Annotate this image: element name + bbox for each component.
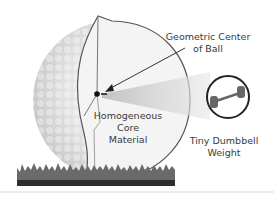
label-core-3: Material — [109, 134, 148, 145]
label-core-2: Core — [117, 122, 139, 133]
label-weight-1: Tiny Dumbbell — [189, 135, 259, 146]
dumbbell-callout — [207, 76, 249, 118]
small-weight-mark — [101, 93, 107, 95]
golf-ball-diagram: Geometric Center of Ball Homogeneous Cor… — [0, 0, 274, 201]
label-weight-2: Weight — [207, 147, 240, 158]
label-core-1: Homogeneous — [94, 110, 163, 121]
geometric-center-dot — [94, 91, 100, 97]
label-geometric-center-1: Geometric Center — [166, 31, 251, 42]
bottom-divider — [0, 191, 274, 193]
label-geometric-center-2: of Ball — [193, 43, 223, 54]
